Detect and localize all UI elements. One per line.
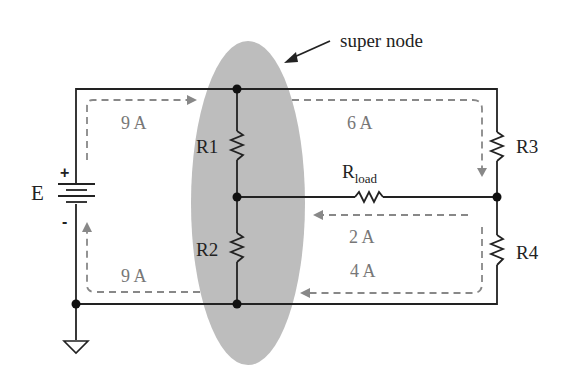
battery-icon: [58, 184, 95, 202]
r1-label: R1: [196, 136, 218, 157]
current-label-top-right: 6 A: [347, 113, 373, 133]
arrow-left-icon: [300, 288, 310, 298]
rload-label: Rload: [342, 161, 378, 186]
resistor-rload-icon: [355, 192, 383, 202]
source-minus: -: [62, 213, 67, 230]
circuit-diagram: super node + - E R1 R2 R3 R4 Rload: [0, 0, 570, 385]
supernode-arrow-icon: [284, 41, 330, 63]
r2-label: R2: [196, 239, 218, 260]
rload-main: R: [342, 161, 355, 182]
current-label-top-left: 9 A: [121, 113, 147, 133]
r3-label: R3: [516, 136, 538, 157]
arrow-down-icon: [477, 168, 487, 177]
arrow-up-icon: [82, 222, 92, 232]
current-label-bottom-left: 9 A: [121, 266, 147, 286]
source-plus: +: [60, 164, 69, 181]
source-label: E: [31, 181, 44, 205]
rload-subscript: load: [355, 171, 378, 186]
ground-icon: [64, 341, 88, 353]
r4-label: R4: [516, 242, 539, 263]
arrow-right-icon: [187, 95, 197, 105]
resistor-r4-icon: [491, 235, 503, 265]
arrow-left-icon: [313, 210, 323, 220]
supernode-label: super node: [340, 30, 423, 51]
current-label-bottom-right: 4 A: [350, 261, 376, 281]
resistor-r3-icon: [491, 132, 503, 161]
current-label-mid-right: 2 A: [349, 227, 375, 247]
